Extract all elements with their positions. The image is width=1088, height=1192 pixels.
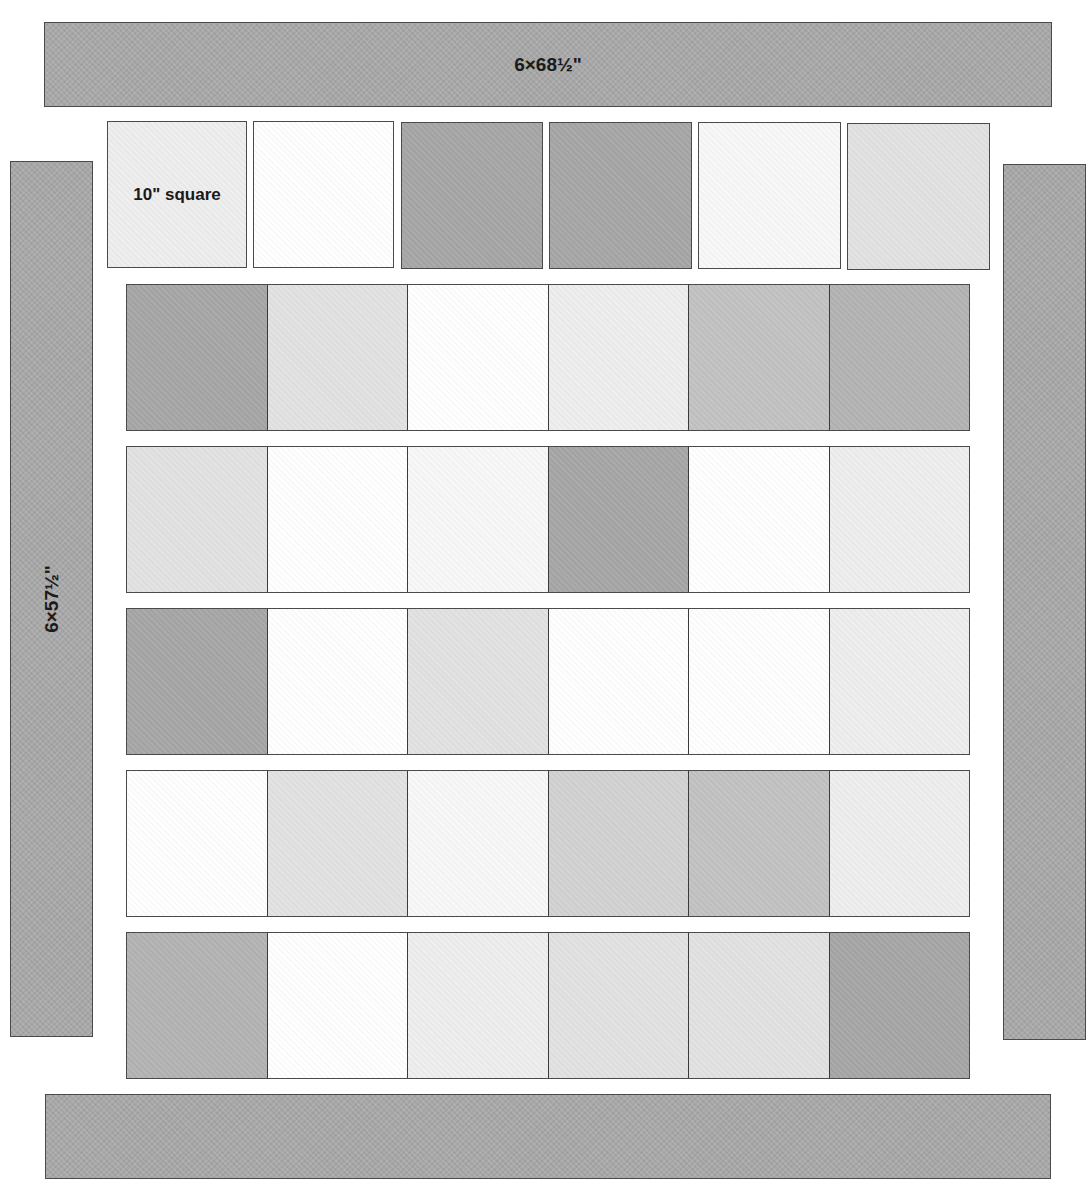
row-2-square-3 xyxy=(408,447,549,592)
row-3-square-1 xyxy=(127,609,268,754)
row-4-square-6 xyxy=(830,771,970,916)
row-4-square-1 xyxy=(127,771,268,916)
left-border-label: 6×57½" xyxy=(41,565,63,633)
row-2-square-6 xyxy=(830,447,970,592)
top-border-strip: 6×68½" xyxy=(44,22,1052,107)
sewn-row-3 xyxy=(126,608,970,755)
row-3-square-5 xyxy=(689,609,830,754)
top-row-square-2 xyxy=(253,121,394,268)
top-row-square-3 xyxy=(401,122,543,269)
row-5-square-3 xyxy=(408,933,549,1078)
row-4-square-2 xyxy=(268,771,409,916)
row-5-square-6 xyxy=(830,933,970,1078)
row-2-square-2 xyxy=(268,447,409,592)
sewn-row-1 xyxy=(126,284,970,431)
row-1-square-6 xyxy=(830,285,970,430)
row-3-square-3 xyxy=(408,609,549,754)
row-3-square-4 xyxy=(549,609,690,754)
row-1-square-1 xyxy=(127,285,268,430)
row-5-square-2 xyxy=(268,933,409,1078)
row-4-square-3 xyxy=(408,771,549,916)
top-row-square-4 xyxy=(549,122,692,269)
top-row-square-6 xyxy=(847,123,990,270)
row-4-square-5 xyxy=(689,771,830,916)
row-4-square-4 xyxy=(549,771,690,916)
row-2-square-4 xyxy=(549,447,690,592)
row-1-square-5 xyxy=(689,285,830,430)
square-size-label: 10" square xyxy=(133,185,220,205)
top-border-label: 6×68½" xyxy=(514,54,582,76)
row-2-square-5 xyxy=(689,447,830,592)
row-1-square-3 xyxy=(408,285,549,430)
row-5-square-5 xyxy=(689,933,830,1078)
bottom-border-strip xyxy=(45,1094,1051,1179)
sewn-row-5 xyxy=(126,932,970,1079)
top-row-square-5 xyxy=(698,122,841,269)
row-1-square-4 xyxy=(549,285,690,430)
left-border-strip: 6×57½" xyxy=(10,161,93,1037)
right-border-strip xyxy=(1003,164,1086,1040)
row-1-square-2 xyxy=(268,285,409,430)
sewn-row-4 xyxy=(126,770,970,917)
top-row-square-1: 10" square xyxy=(107,121,247,268)
row-5-square-1 xyxy=(127,933,268,1078)
row-2-square-1 xyxy=(127,447,268,592)
row-3-square-6 xyxy=(830,609,970,754)
sewn-row-2 xyxy=(126,446,970,593)
row-3-square-2 xyxy=(268,609,409,754)
row-5-square-4 xyxy=(549,933,690,1078)
